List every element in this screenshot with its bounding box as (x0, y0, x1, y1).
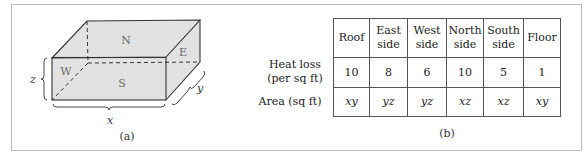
dimension-label-x: x (107, 114, 113, 127)
dimension-label-y: y (197, 82, 203, 95)
area-south: xz (484, 88, 524, 117)
header-west-side: Westside (408, 19, 447, 58)
area-floor: xy (524, 88, 561, 117)
dimension-label-z: z (30, 73, 36, 86)
z-brace (41, 58, 47, 100)
caption-a: (a) (119, 130, 134, 143)
heat-loss-east: 8 (370, 58, 408, 88)
header-south-side: Southside (484, 19, 524, 58)
south-face (52, 57, 166, 100)
heat-loss-roof: 10 (334, 58, 370, 88)
header-roof: Roof (334, 19, 370, 58)
area-north: xz (447, 88, 484, 117)
heat-loss-floor: 1 (524, 58, 561, 88)
heat-loss-south: 5 (484, 58, 524, 88)
area-east: yz (370, 88, 408, 117)
heat-loss-west: 6 (408, 58, 447, 88)
face-label-south: S (118, 77, 126, 90)
row-label-area: Area (sq ft) (252, 95, 328, 109)
row-label-heat-loss-line2: (per sq ft) (262, 72, 328, 86)
face-label-west: W (60, 65, 71, 78)
header-floor: Floor (524, 19, 561, 58)
header-east-side: Eastside (370, 19, 408, 58)
face-label-east: E (179, 46, 187, 59)
heat-loss-table: Roof Eastside Westside Northside Southsi… (333, 18, 561, 117)
area-roof: xy (334, 88, 370, 117)
header-north-side: Northside (447, 19, 484, 58)
row-label-heat-loss-line1: Heat loss (262, 58, 328, 72)
row-label-heat-loss: Heat loss (per sq ft) (262, 58, 328, 86)
face-label-north: N (121, 34, 131, 47)
x-brace (53, 104, 165, 110)
header-row: Roof Eastside Westside Northside Southsi… (334, 19, 561, 58)
heat-loss-row: 10 8 6 10 5 1 (334, 58, 561, 88)
heat-loss-north: 10 (447, 58, 484, 88)
area-west: yz (408, 88, 447, 117)
caption-b: (b) (439, 127, 455, 140)
area-row: xy yz yz xz xz xy (334, 88, 561, 117)
